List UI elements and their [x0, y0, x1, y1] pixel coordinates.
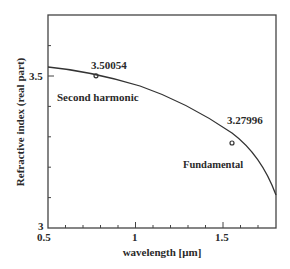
annotation-fundamental: Fundamental	[183, 159, 243, 170]
x-tick-label-0.5: 0.5	[37, 231, 51, 243]
point-label-1: 3.50054	[91, 59, 127, 71]
annotation-second-harmonic: Second harmonic	[57, 91, 139, 103]
x-tick-label-1.5: 1.5	[215, 231, 229, 243]
x-tick-label-1: 1	[132, 231, 138, 243]
point-label-2: 3.27996	[227, 114, 263, 126]
index-curve	[48, 67, 276, 195]
x-ticks	[66, 222, 259, 228]
x-axis-title: wavelength [μm]	[123, 246, 202, 258]
marker-fundamental	[230, 141, 234, 145]
refractive-index-chart: 3.50054 3.27996 Second harmonic Fundamen…	[0, 0, 290, 269]
y-axis-title: Refractive index (real part)	[14, 57, 27, 186]
y-tick-label-3.5: 3.5	[29, 70, 43, 82]
marker-second-harmonic	[94, 74, 98, 78]
y-ticks	[48, 46, 54, 198]
